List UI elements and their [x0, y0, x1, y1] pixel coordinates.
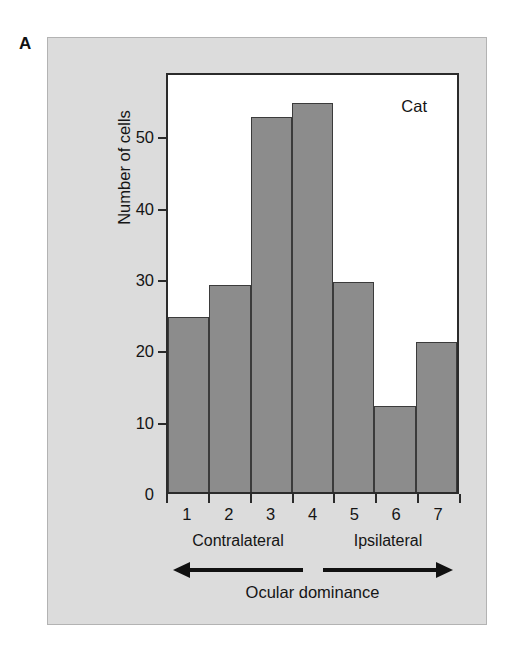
contralateral-arrow	[173, 561, 303, 577]
y-tick-label-20: 20	[90, 342, 154, 361]
arrow-left-line	[188, 568, 303, 572]
y-tick-10	[158, 423, 166, 425]
x-tick-7	[459, 494, 461, 503]
y-tick-label-10: 10	[90, 413, 154, 432]
x-tick-6	[417, 494, 419, 503]
y-tick-label-40: 40	[90, 199, 154, 218]
panel-letter: A	[19, 35, 31, 52]
plot-area: Cat	[166, 73, 459, 494]
bar-series	[168, 75, 457, 492]
bar-1	[168, 317, 209, 492]
x-tick-label-6: 6	[381, 505, 411, 524]
x-tick-label-3: 3	[256, 505, 286, 524]
y-axis-title: Number of cells	[115, 58, 134, 278]
bar-7	[416, 342, 457, 492]
x-tick-label-1: 1	[172, 505, 202, 524]
y-tick-30	[158, 280, 166, 282]
series-label: Cat	[401, 97, 427, 116]
bar-3	[251, 117, 292, 492]
x-tick-1	[208, 494, 210, 503]
y-tick-label-50: 50	[90, 128, 154, 147]
y-tick-20	[158, 351, 166, 353]
ipsilateral-arrow	[323, 561, 453, 577]
x-tick-label-5: 5	[339, 505, 369, 524]
y-tick-label-30: 30	[90, 270, 154, 289]
chart-panel-card: Number of cells 01020304050 Cat 1234567 …	[47, 37, 487, 625]
x-tick-label-2: 2	[214, 505, 244, 524]
bar-2	[209, 285, 250, 492]
figure-panel-a: A Number of cells 01020304050 Cat 123456…	[0, 0, 520, 654]
bar-4	[292, 103, 333, 492]
y-tick-40	[158, 209, 166, 211]
bar-5	[333, 282, 374, 493]
y-tick-label-0: 0	[90, 485, 154, 504]
x-tick-0	[166, 494, 168, 503]
contralateral-label: Contralateral	[192, 532, 284, 550]
x-tick-5	[375, 494, 377, 503]
x-tick-label-4: 4	[298, 505, 328, 524]
bar-6	[374, 406, 415, 492]
x-tick-2	[250, 494, 252, 503]
y-tick-50	[158, 137, 166, 139]
x-tick-4	[333, 494, 335, 503]
x-tick-3	[292, 494, 294, 503]
arrow-right-line	[323, 568, 438, 572]
arrow-right-head-icon	[436, 562, 453, 578]
x-tick-label-7: 7	[423, 505, 453, 524]
ipsilateral-label: Ipsilateral	[354, 532, 422, 550]
x-axis-title: Ocular dominance	[166, 583, 459, 602]
